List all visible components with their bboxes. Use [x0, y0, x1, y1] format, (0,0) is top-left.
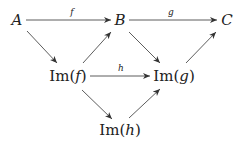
arrow-a-to-imf	[27, 31, 57, 63]
label-f: f	[70, 7, 73, 17]
arrow-img-to-c	[186, 32, 216, 63]
arrow-imf-to-imh	[82, 90, 112, 119]
arrow-imf-to-b	[83, 32, 111, 63]
node-c: C	[221, 12, 232, 28]
node-a: A	[12, 12, 23, 28]
node-b: B	[114, 12, 125, 28]
node-im-f: Im(f)	[49, 68, 86, 84]
label-g: g	[168, 7, 174, 17]
arrow-b-to-img	[129, 32, 160, 63]
node-im-g: Im(g)	[153, 68, 194, 84]
arrow-imh-to-img	[129, 89, 160, 118]
label-h: h	[118, 63, 124, 73]
node-im-h: Im(h)	[99, 122, 141, 138]
